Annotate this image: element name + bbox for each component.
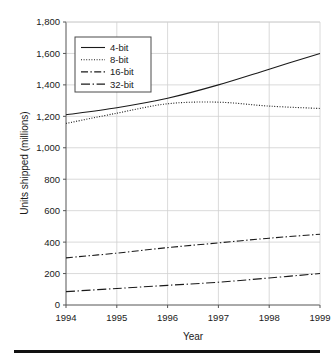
x-tick-label: 1996 — [157, 312, 178, 323]
x-tick-label: 1997 — [208, 312, 229, 323]
chart-figure: 02004006008001,0001,2001,4001,6001,800 1… — [0, 0, 334, 361]
y-tick-label: 1,800 — [36, 16, 60, 27]
x-tick-label: 1994 — [55, 312, 76, 323]
legend-label-16-bit: 16-bit — [110, 66, 134, 77]
x-tick-label: 1995 — [106, 312, 127, 323]
y-tick-label: 1,600 — [36, 48, 60, 59]
chart-legend: 4-bit8-bit16-bit32-bit — [75, 37, 151, 92]
x-tick-label: 1998 — [259, 312, 280, 323]
y-tick-label: 1,400 — [36, 79, 60, 90]
y-tick-label: 200 — [44, 268, 60, 279]
x-axis-title: Year — [183, 331, 204, 342]
y-tick-label: 0 — [55, 299, 60, 310]
y-tick-label: 400 — [44, 237, 60, 248]
legend-label-8-bit: 8-bit — [110, 54, 129, 65]
y-tick-label: 1,200 — [36, 111, 60, 122]
y-tick-label: 1,000 — [36, 142, 60, 153]
y-tick-label: 600 — [44, 205, 60, 216]
legend-label-4-bit: 4-bit — [110, 42, 129, 53]
x-tick-label: 1999 — [309, 312, 330, 323]
bottom-rule — [14, 350, 320, 353]
line-chart: 02004006008001,0001,2001,4001,6001,800 1… — [0, 0, 334, 361]
legend-label-32-bit: 32-bit — [110, 79, 134, 90]
y-axis-title: Units shipped (millions) — [19, 111, 30, 214]
y-tick-label: 800 — [44, 174, 60, 185]
